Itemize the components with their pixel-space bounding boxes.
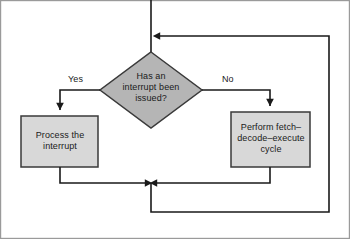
fetch-cycle-box bbox=[231, 112, 310, 167]
branch-label-no: No bbox=[222, 74, 234, 84]
edge-process-to-merge bbox=[60, 167, 145, 183]
edge-yes bbox=[60, 90, 100, 110]
process-interrupt-box bbox=[21, 116, 98, 167]
flowchart-canvas: Has an interrupt been issued? Process th… bbox=[0, 0, 350, 239]
flowchart-graphics bbox=[0, 0, 350, 239]
edge-fetch-to-merge bbox=[157, 167, 270, 183]
branch-label-yes: Yes bbox=[68, 74, 83, 84]
decision-diamond bbox=[100, 52, 202, 128]
edge-no bbox=[202, 90, 270, 106]
